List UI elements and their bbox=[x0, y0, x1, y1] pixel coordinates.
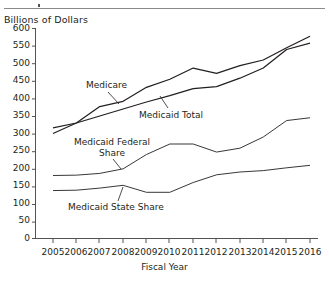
leader-line-medicaid-federal-share bbox=[113, 159, 121, 169]
figure-container: Billions of Dollars 600 550 500 450 400 … bbox=[0, 0, 329, 281]
series-line-medicaid-state-share bbox=[53, 165, 310, 192]
leader-line-medicaid-state-share bbox=[118, 187, 123, 201]
leader-line-medicare bbox=[108, 92, 119, 104]
plot-area bbox=[0, 0, 329, 281]
x-axis-ticks bbox=[53, 239, 310, 243]
series-line-medicaid-federal-share bbox=[53, 118, 310, 176]
